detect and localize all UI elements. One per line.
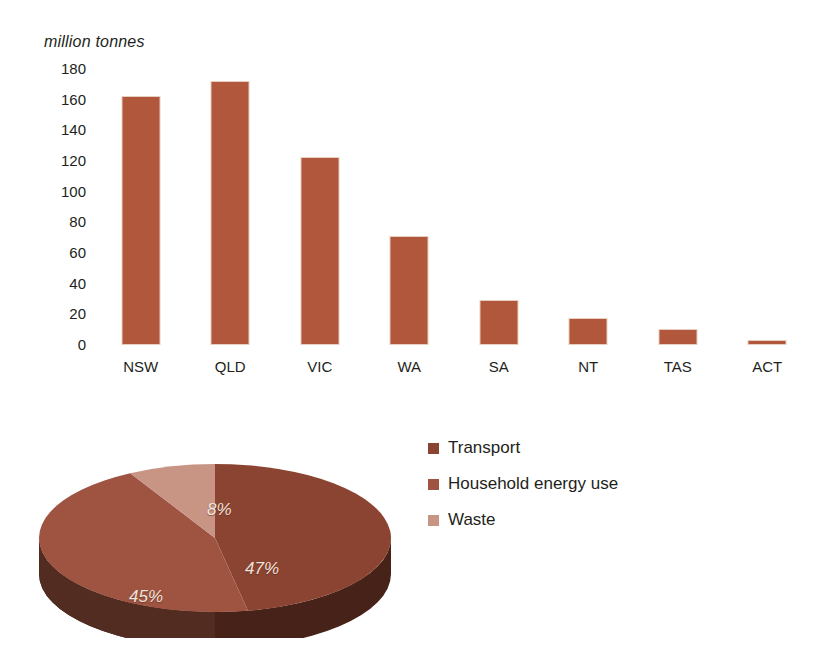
bar-group-nt: NT (544, 68, 634, 344)
legend-swatch-icon (428, 443, 439, 454)
bar-nsw[interactable] (122, 97, 159, 344)
bar-group-act: ACT (723, 68, 813, 344)
pie-chart-graphic: 47% 45% 8% (33, 442, 397, 638)
bar-chart-axis-title: million tonnes (44, 33, 145, 51)
x-axis-label-qld: QLD (215, 358, 246, 375)
bar-group-qld: QLD (186, 68, 276, 344)
pie-slice-label-transport: 47% (245, 559, 279, 579)
bar-vic[interactable] (301, 158, 338, 344)
pie-slice-label-waste: 8% (207, 500, 232, 520)
y-axis-tick-180: 180 (61, 60, 86, 77)
x-axis-label-vic: VIC (307, 358, 332, 375)
bar-act[interactable] (749, 341, 786, 344)
y-axis-tick-160: 160 (61, 90, 86, 107)
x-axis-label-act: ACT (752, 358, 782, 375)
bar-wa[interactable] (391, 237, 428, 344)
pie-chart-legend: TransportHousehold energy useWaste (428, 430, 758, 538)
y-axis-tick-140: 140 (61, 121, 86, 138)
y-axis-tick-80: 80 (69, 213, 86, 230)
legend-swatch-icon (428, 515, 439, 526)
bar-group-sa: SA (454, 68, 544, 344)
x-axis-label-wa: WA (397, 358, 421, 375)
x-axis-label-nsw: NSW (123, 358, 158, 375)
bar-group-wa: WA (365, 68, 455, 344)
legend-item-household-energy-use[interactable]: Household energy use (428, 466, 758, 502)
y-axis-tick-20: 20 (69, 305, 86, 322)
legend-item-waste[interactable]: Waste (428, 502, 758, 538)
y-axis-tick-100: 100 (61, 182, 86, 199)
x-axis-label-sa: SA (489, 358, 509, 375)
x-axis-label-nt: NT (578, 358, 598, 375)
pie-chart-svg (33, 442, 397, 638)
bar-nt[interactable] (570, 319, 607, 344)
y-axis-tick-40: 40 (69, 274, 86, 291)
pie-slice-label-household-energy-use: 45% (129, 587, 163, 607)
pie-chart: 47% 45% 8% TransportHousehold energy use… (0, 395, 829, 649)
bar-sa[interactable] (480, 301, 517, 344)
bar-qld[interactable] (212, 82, 249, 344)
x-axis-label-tas: TAS (664, 358, 692, 375)
bar-group-vic: VIC (275, 68, 365, 344)
y-axis-tick-0: 0 (78, 336, 86, 353)
y-axis-tick-120: 120 (61, 152, 86, 169)
bar-chart: million tonnes 180160140120100806040200 … (0, 0, 829, 395)
bar-chart-plot-area: 180160140120100806040200 NSWQLDVICWASANT… (96, 68, 812, 344)
bar-group-nsw: NSW (96, 68, 186, 344)
y-axis-tick-60: 60 (69, 244, 86, 261)
legend-label: Waste (448, 510, 496, 530)
legend-label: Household energy use (448, 474, 618, 494)
bar-group-tas: TAS (633, 68, 723, 344)
legend-label: Transport (448, 438, 520, 458)
legend-swatch-icon (428, 479, 439, 490)
legend-item-transport[interactable]: Transport (428, 430, 758, 466)
bar-tas[interactable] (659, 330, 696, 344)
